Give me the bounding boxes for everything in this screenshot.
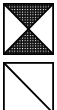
- swatch-single-diagonal-square: [3, 62, 54, 110]
- crossed-square-dotted-icon: [3, 3, 54, 55]
- swatch-stack: [0, 0, 57, 110]
- single-diagonal-square-icon: [3, 62, 54, 110]
- swatch-crossed-square-dotted: [3, 3, 54, 55]
